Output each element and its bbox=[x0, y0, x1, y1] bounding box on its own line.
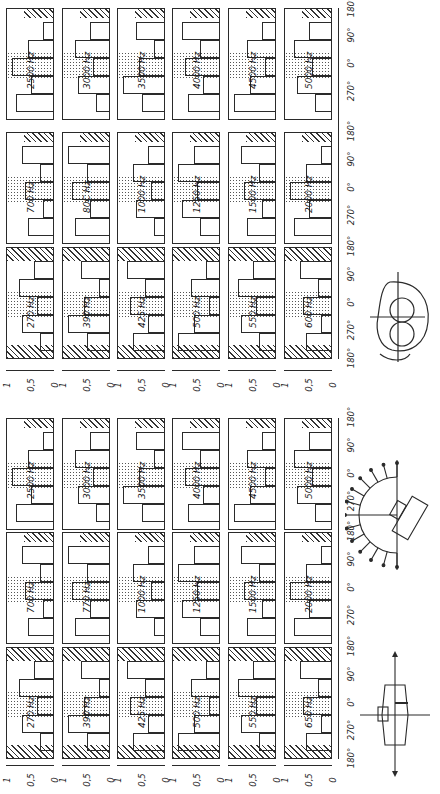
histogram-bar bbox=[90, 600, 110, 618]
histogram-bar bbox=[234, 504, 276, 522]
frequency-label: 3500 Hz bbox=[137, 51, 147, 88]
frequency-label: 5000 Hz bbox=[304, 461, 314, 498]
frequency-label: 1250 Hz bbox=[192, 575, 202, 612]
y-tick-label: 0,5 bbox=[248, 773, 258, 787]
rear-region-fill bbox=[190, 419, 220, 428]
rear-region-fill bbox=[118, 648, 164, 661]
rear-region-fill bbox=[63, 648, 109, 661]
histogram-bar bbox=[259, 733, 276, 751]
rear-region-fill bbox=[302, 133, 332, 142]
rear-region-fill bbox=[7, 248, 53, 261]
x-tick-label: 270° bbox=[346, 80, 356, 102]
rear-region-fill bbox=[229, 648, 275, 661]
histogram-bar bbox=[188, 504, 220, 522]
histogram-bar bbox=[19, 679, 54, 697]
y-tick-label: 0,5 bbox=[304, 378, 314, 392]
rear-region-fill bbox=[246, 533, 276, 542]
histogram-bar bbox=[294, 218, 333, 236]
y-axis-line bbox=[228, 765, 276, 766]
rear-region-fill bbox=[80, 9, 110, 18]
histogram-bar bbox=[200, 450, 220, 468]
histogram-bar bbox=[148, 315, 165, 333]
histogram-bar bbox=[253, 261, 276, 279]
histogram-bar bbox=[191, 679, 220, 697]
histogram-bar bbox=[203, 486, 220, 504]
histogram-bar bbox=[81, 261, 110, 279]
histogram-bar bbox=[206, 661, 220, 679]
histogram-bar bbox=[130, 697, 165, 715]
histogram-bar bbox=[142, 504, 165, 522]
histogram-bar bbox=[127, 261, 166, 279]
histogram-bar bbox=[209, 697, 220, 715]
x-tick-label: 180° bbox=[346, 120, 356, 142]
histogram-bar bbox=[200, 40, 220, 58]
y-axis-line bbox=[228, 370, 276, 371]
y-tick-label: 1 bbox=[280, 378, 290, 392]
histogram-bar bbox=[182, 432, 221, 450]
histogram-bar bbox=[99, 679, 110, 697]
histogram-bar bbox=[133, 733, 165, 751]
histogram-bar bbox=[178, 733, 220, 751]
y-axis-line bbox=[62, 765, 110, 766]
histogram-bar bbox=[247, 218, 276, 236]
frequency-label: 2500 Hz bbox=[26, 51, 36, 88]
histogram-bar bbox=[96, 504, 110, 522]
histogram-bar bbox=[136, 432, 165, 450]
histogram-bar bbox=[43, 432, 54, 450]
histogram-bar bbox=[148, 146, 165, 164]
rear-region-fill bbox=[24, 133, 54, 142]
histogram-bar bbox=[90, 22, 110, 40]
y-tick-label: 1 bbox=[113, 378, 123, 392]
histogram-bar bbox=[182, 22, 221, 40]
rear-region-fill bbox=[285, 248, 331, 261]
histogram-bar bbox=[151, 582, 165, 600]
histogram-bar bbox=[43, 22, 54, 40]
histogram-bar bbox=[318, 679, 332, 697]
frequency-label: 770 Hz bbox=[82, 581, 92, 613]
y-tick-label: 0,5 bbox=[248, 378, 258, 392]
histogram-bar bbox=[241, 146, 276, 164]
histogram-bar bbox=[194, 146, 220, 164]
frequency-label: 425 Hz bbox=[137, 696, 147, 728]
frequency-label: 500 Hz bbox=[192, 696, 202, 728]
histogram-bar bbox=[321, 715, 332, 733]
histogram-bar bbox=[315, 94, 332, 112]
histogram-bar bbox=[130, 297, 165, 315]
y-tick-label: 1 bbox=[224, 378, 234, 392]
frequency-label: 1500 Hz bbox=[248, 575, 258, 612]
histogram-bar bbox=[37, 297, 54, 315]
histogram-bar bbox=[22, 546, 54, 564]
y-tick-label: 1 bbox=[168, 378, 178, 392]
y-tick-label: 1 bbox=[2, 773, 12, 787]
histogram-bar bbox=[68, 146, 110, 164]
histogram-bar bbox=[148, 715, 165, 733]
histogram-bar bbox=[87, 564, 110, 582]
frequency-label: 3500 Hz bbox=[137, 461, 147, 498]
frequency-label: 390 Hz bbox=[82, 296, 92, 328]
rear-region-fill bbox=[302, 419, 332, 428]
rear-region-fill bbox=[190, 9, 220, 18]
histogram-bar bbox=[256, 697, 276, 715]
frequency-label: 1000 Hz bbox=[137, 575, 147, 612]
histogram-bar bbox=[75, 40, 110, 58]
histogram-bar bbox=[154, 218, 165, 236]
histogram-bar bbox=[306, 733, 332, 751]
histogram-bar bbox=[185, 468, 220, 486]
x-tick-label: 90° bbox=[346, 24, 356, 46]
rear-region-fill bbox=[24, 533, 54, 542]
histogram-bar bbox=[154, 450, 165, 468]
histogram-bar bbox=[81, 661, 110, 679]
rear-region-fill bbox=[190, 133, 220, 142]
y-tick-label: 0,5 bbox=[26, 378, 36, 392]
frequency-label: 4500 Hz bbox=[248, 461, 258, 498]
histogram-bar bbox=[188, 94, 220, 112]
histogram-bar bbox=[34, 661, 54, 679]
rear-region-fill bbox=[80, 533, 110, 542]
histogram-bar bbox=[194, 546, 220, 564]
histogram-bar bbox=[200, 218, 220, 236]
histogram-bar bbox=[191, 279, 220, 297]
y-tick-label: 1 bbox=[58, 773, 68, 787]
histogram-bar bbox=[312, 58, 332, 76]
frequency-label: 4000 Hz bbox=[192, 51, 202, 88]
frequency-label: 600 Hz bbox=[304, 296, 314, 328]
